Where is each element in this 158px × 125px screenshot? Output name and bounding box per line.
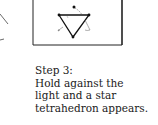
step-caption: Step 3: Hold against the light and a sta… (35, 64, 148, 114)
vertex-dot-icon (58, 14, 61, 17)
tick-mark (67, 16, 68, 18)
drawing-frame-icon (33, 0, 122, 45)
inverted-triangle-icon (59, 15, 89, 37)
vertex-dot-icon (88, 14, 91, 17)
fold-arrow-icon (75, 8, 82, 15)
vertex-dot-icon (72, 36, 75, 39)
fold-arrow-icon (58, 27, 63, 31)
step-label: Step 3: (35, 64, 148, 77)
left-partial-stroke (0, 14, 8, 24)
left-partial-stroke-2 (0, 39, 4, 40)
caption-line: light and a star (35, 89, 148, 102)
fold-arrow-icon (85, 20, 90, 31)
caption-line: tetrahedron appears. (35, 102, 148, 115)
caption-line: Hold against the (35, 77, 148, 90)
